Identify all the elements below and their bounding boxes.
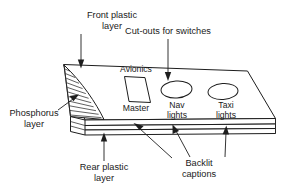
svg-text:Taxi: Taxi: [218, 100, 233, 110]
svg-text:lights: lights: [167, 110, 187, 120]
callout-front-plastic-layer: Front plastic layer: [78, 10, 138, 69]
panel-caption-master: Master: [123, 103, 149, 113]
svg-text:layer: layer: [94, 173, 114, 183]
panel-caption-nav-lights: Nav lights: [167, 100, 187, 120]
panel-construction-diagram: Avionics Master Nav lights Taxi lights F…: [0, 0, 289, 196]
panel-caption-avionics: Avionics: [120, 64, 152, 74]
svg-text:captions: captions: [182, 169, 217, 179]
svg-text:layer: layer: [102, 21, 122, 31]
svg-text:Rear plastic: Rear plastic: [80, 162, 129, 172]
leader-line-nav: [176, 131, 190, 157]
svg-text:Phosphorus: Phosphorus: [9, 108, 58, 118]
panel-caption-taxi-lights: Taxi lights: [216, 100, 236, 120]
svg-text:Backlit: Backlit: [185, 158, 213, 168]
diagram-canvas: Avionics Master Nav lights Taxi lights F…: [0, 0, 289, 196]
svg-text:layer: layer: [24, 119, 44, 129]
svg-text:Front plastic: Front plastic: [87, 10, 137, 20]
svg-text:Cut-outs for switches: Cut-outs for switches: [125, 26, 211, 36]
svg-text:Nav: Nav: [169, 100, 185, 110]
callout-rear-plastic-layer: Rear plastic layer: [80, 133, 129, 184]
leader-line-taxi: [225, 132, 226, 157]
svg-text:lights: lights: [216, 110, 236, 120]
